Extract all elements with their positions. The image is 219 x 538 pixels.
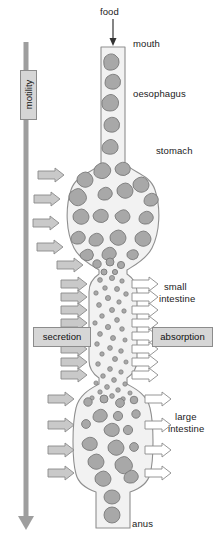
label-box-secretion: secretion bbox=[33, 327, 91, 347]
label-stomach: stomach bbox=[156, 145, 193, 157]
label-large-intestine-line1: large bbox=[175, 411, 197, 423]
large-intestine-secretion-arrows bbox=[48, 392, 74, 480]
label-large-intestine-line2: intestine bbox=[168, 423, 204, 435]
motility-text: motility bbox=[23, 71, 34, 118]
digestive-tract-diagram: food mouth oesophagus stomach small inte… bbox=[0, 0, 219, 538]
label-anus: anus bbox=[132, 518, 153, 530]
food-pointer-arrow bbox=[110, 19, 117, 46]
label-mouth: mouth bbox=[133, 38, 160, 50]
label-small-intestine-line2: intestine bbox=[159, 293, 195, 305]
label-box-motility: motility bbox=[20, 70, 37, 120]
label-box-absorption: absorption bbox=[152, 327, 213, 347]
label-small-intestine-line1: small bbox=[164, 281, 187, 293]
label-oesophagus: oesophagus bbox=[133, 88, 186, 100]
label-food: food bbox=[100, 6, 119, 18]
